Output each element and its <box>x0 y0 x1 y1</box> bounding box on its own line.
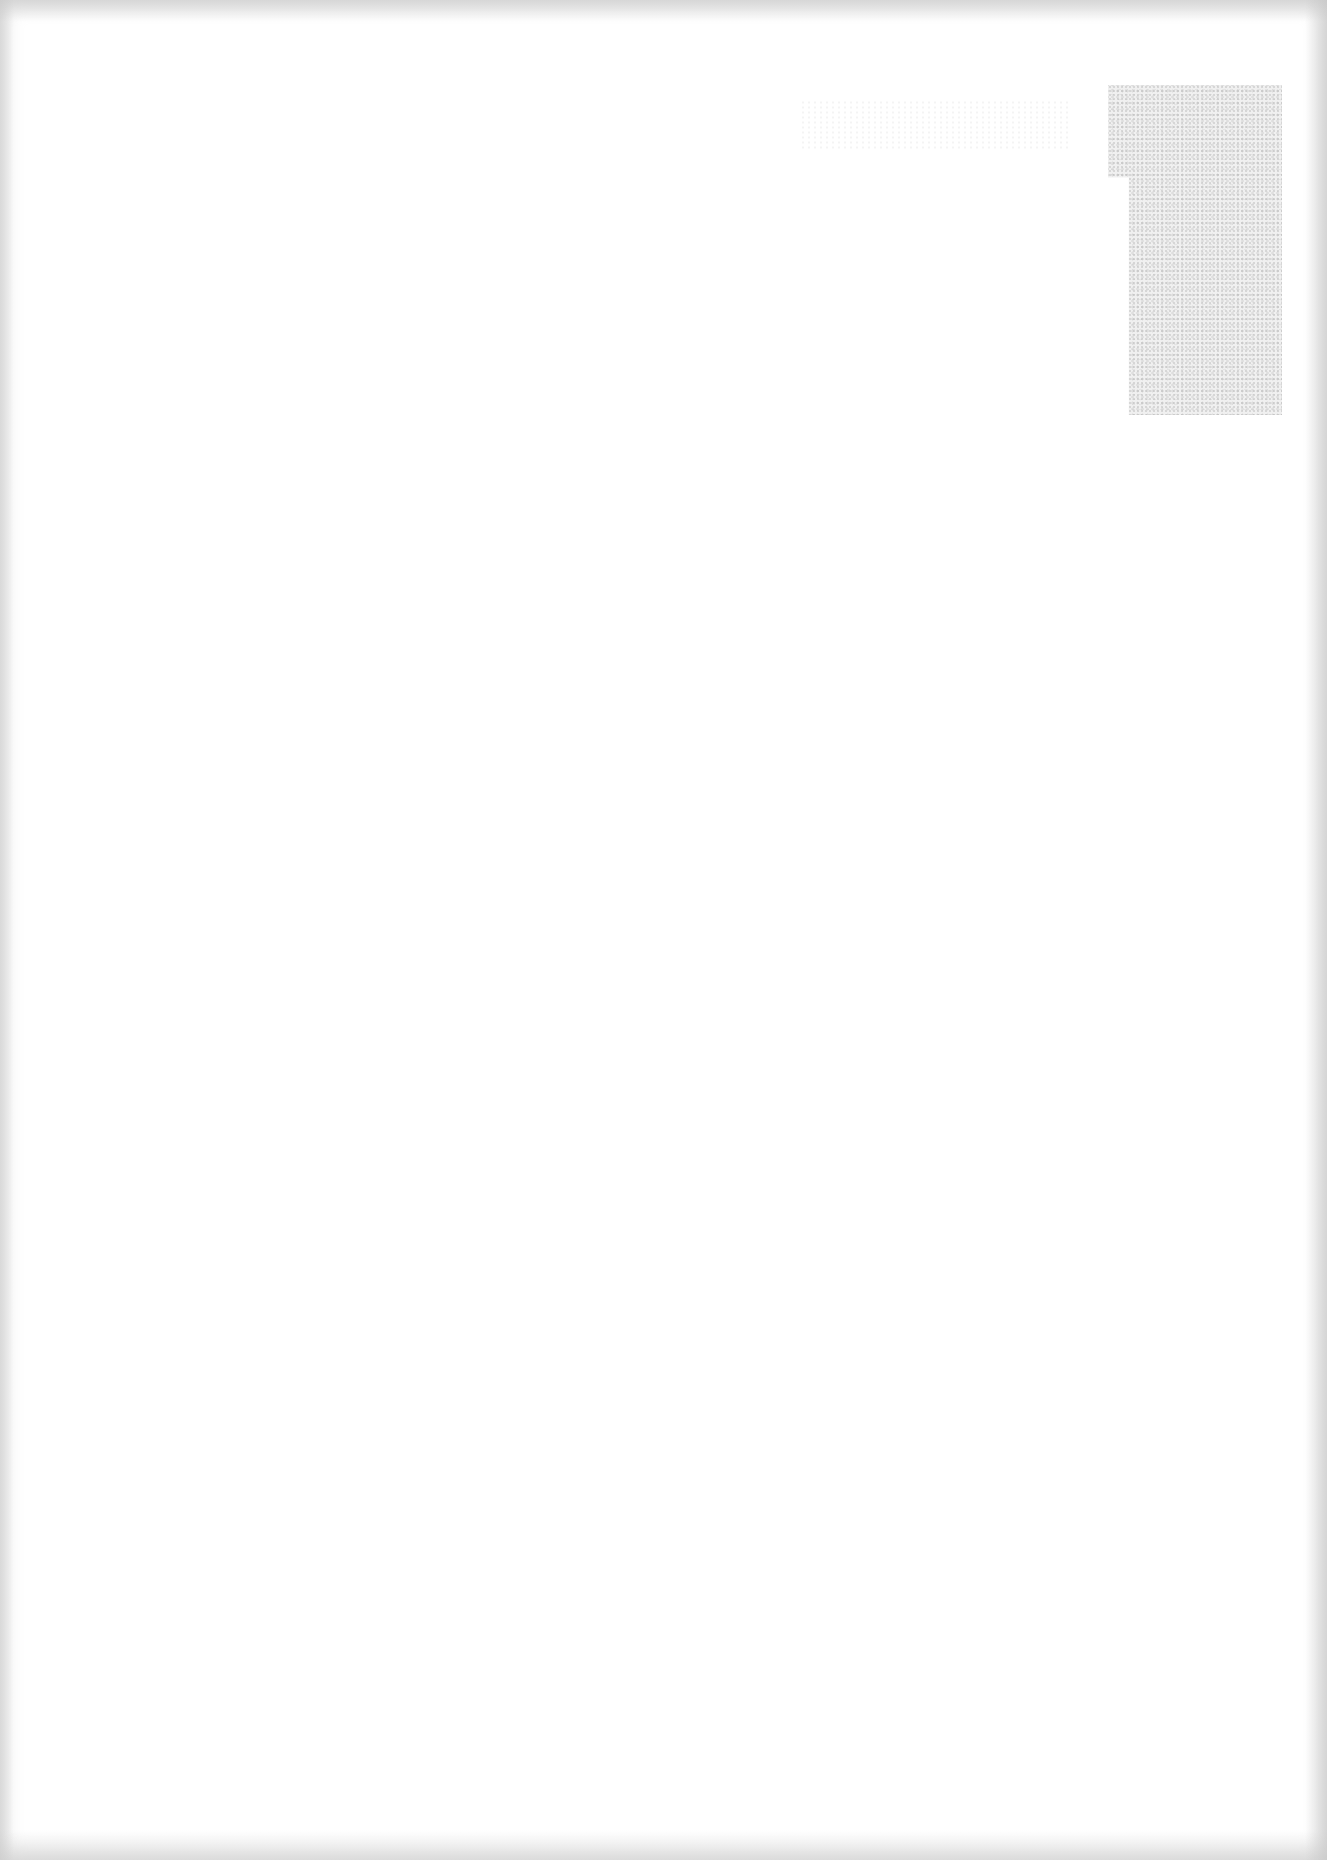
scan-edge-shadow-left <box>0 0 14 1860</box>
blank-document-page <box>0 0 1327 1860</box>
faint-bleed-through-marks <box>800 100 1070 150</box>
scan-edge-shadow-top <box>0 0 1327 22</box>
scan-edge-shadow-bottom <box>0 1830 1327 1860</box>
bleed-through-image-patch <box>1108 85 1282 415</box>
scan-edge-shadow-right <box>1305 0 1327 1860</box>
